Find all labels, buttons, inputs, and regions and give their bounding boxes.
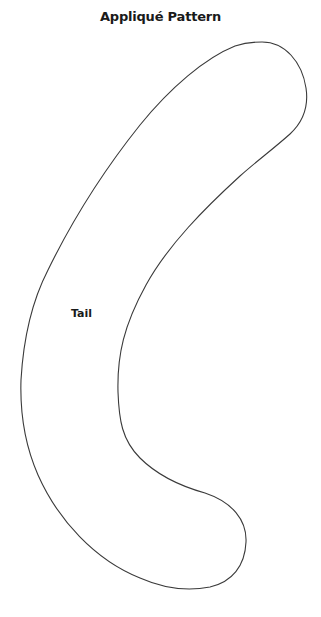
- tail-pattern-outline: [0, 0, 321, 617]
- piece-label: Tail: [71, 307, 92, 320]
- tail-shape: [21, 42, 307, 589]
